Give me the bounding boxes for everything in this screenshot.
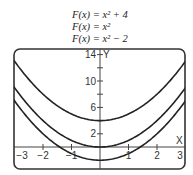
x-tick-label: −1 xyxy=(66,150,78,161)
y-tick-label: 2 xyxy=(90,128,96,139)
x-tick-label: −3 xyxy=(16,150,28,161)
y-tick-label: 10 xyxy=(85,76,97,87)
x-axis-label: X xyxy=(176,135,183,146)
y-tick-label: 14 xyxy=(85,49,97,60)
y-axis-label: Y xyxy=(103,49,110,60)
x-tick-label: 3 xyxy=(177,150,183,161)
chart-plot-area: −3−2−1123261014YX xyxy=(0,0,193,175)
x-tick-label: −2 xyxy=(37,150,49,161)
y-tick-label: 6 xyxy=(90,102,96,113)
x-tick-label: 2 xyxy=(154,150,160,161)
x-tick-label: 1 xyxy=(126,150,132,161)
